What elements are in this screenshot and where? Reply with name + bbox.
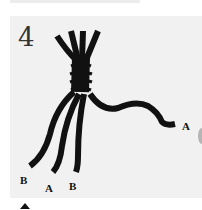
top-divider [10, 0, 140, 3]
instruction-panel: 4 A B A B [10, 16, 202, 198]
label-bottom-mid: A [45, 182, 53, 194]
up-arrow-icon[interactable] [20, 203, 30, 209]
knot-illustration [10, 16, 202, 198]
label-bottom-right: B [69, 180, 76, 192]
label-bottom-left: B [20, 174, 27, 186]
edge-shadow [198, 128, 202, 144]
label-right-strand: A [182, 120, 190, 132]
